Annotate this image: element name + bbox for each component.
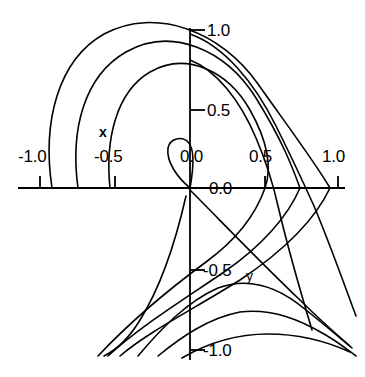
contour-curve-contour-2: [76, 41, 300, 356]
x-tick-label--0.5: -0.5: [94, 148, 123, 165]
contour-plot-figure: 1.0 0.5 0.0 -0.5 -1.0 -1.0 -0.5 0.0 0.5 …: [0, 0, 365, 377]
y-axis-label: y: [246, 268, 253, 285]
x-tick-label--1.0: -1.0: [18, 148, 47, 165]
y-tick-label-1.0: 1.0: [207, 22, 230, 39]
origin-label: 0.0: [209, 180, 232, 197]
contour-curve-contour-4: [104, 196, 186, 356]
y-tick-label--0.5: -0.5: [203, 262, 232, 279]
x-tick-label-1.0: 1.0: [322, 148, 345, 165]
contour-curves-group: [49, 23, 356, 358]
x-tick-label-0.5: 0.5: [249, 148, 272, 165]
x-axis-label: x: [99, 124, 107, 141]
y-tick-label--1.0: -1.0: [203, 342, 232, 359]
x-tick-label-0.0: 0.0: [180, 148, 203, 165]
y-tick-label-0.5: 0.5: [207, 102, 230, 119]
plot-canvas: [0, 0, 365, 377]
